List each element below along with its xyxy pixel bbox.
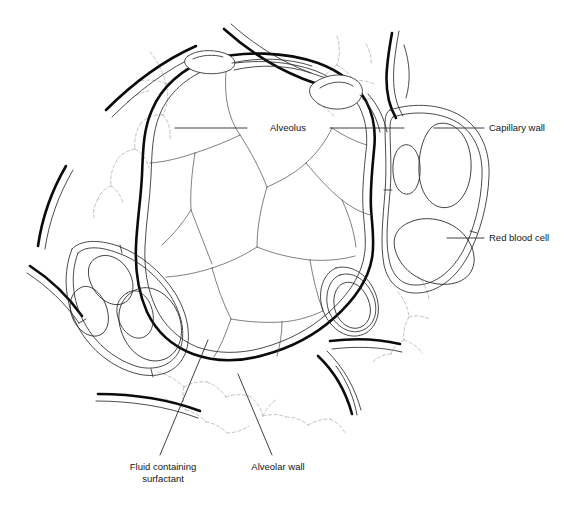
label-alveolar-wall: Alveolar wall xyxy=(251,461,304,472)
label-red-blood-cell: Red blood cell xyxy=(489,232,549,243)
canvas-background xyxy=(0,0,577,507)
diagram-canvas: Alveolus Capillary wall Red blood cell F… xyxy=(0,0,577,507)
label-surfactant: surfactant xyxy=(142,473,184,484)
alveolus-diagram: Alveolus Capillary wall Red blood cell F… xyxy=(0,0,577,507)
label-fluid-containing: Fluid containing xyxy=(130,461,197,472)
label-alveolus: Alveolus xyxy=(270,122,306,133)
label-capillary-wall: Capillary wall xyxy=(489,122,545,133)
